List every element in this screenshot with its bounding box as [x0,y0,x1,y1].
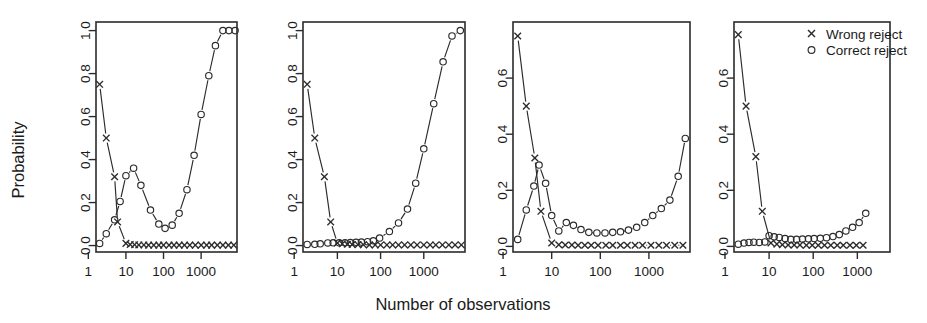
figure-container: 0.00.20.40.60.81.01101001000 0.00.20.40.… [0,0,927,323]
x-tick-label: 1000 [186,264,216,279]
x-tick-label: 1 [85,264,93,279]
x-tick-label: 1000 [634,264,664,279]
x-tick-label: 100 [152,264,175,279]
x-tick-label: 1 [290,264,298,279]
y-tick-label: 0.6 [285,107,300,126]
y-tick-label: 0.2 [285,193,300,212]
y-tick-label: 0.4 [78,150,93,169]
x-tick-label: 1 [721,264,729,279]
y-tick-label: 0.2 [495,181,510,200]
x-tick-label: 1000 [409,264,439,279]
y-tick-label: 0.0 [716,237,731,256]
x-tick-label: 1000 [842,264,872,279]
y-tick-label: 0.2 [78,193,93,212]
y-tick-label: 0.4 [285,150,300,169]
multi-panel-scatter-chart: 0.00.20.40.60.81.01101001000 0.00.20.40.… [0,0,927,323]
y-tick-label: 1.0 [78,21,93,40]
y-tick-label: 0.0 [78,236,93,255]
y-tick-label: 1.0 [285,21,300,40]
x-tick-label: 100 [802,264,825,279]
y-tick-label: 0.0 [285,236,300,255]
y-tick-label: 0.6 [78,107,93,126]
chart-background [0,0,927,323]
x-tick-label: 10 [544,264,559,279]
y-tick-label: 0.4 [495,124,510,143]
y-tick-label: 0.6 [495,69,510,88]
y-tick-label: 0.8 [285,64,300,83]
x-tick-label: 10 [330,264,345,279]
y-axis-title: Probability [9,121,27,199]
x-tick-label: 100 [369,264,392,279]
y-tick-label: 0.0 [495,237,510,256]
y-tick-label: 0.4 [716,124,731,143]
y-tick-label: 0.2 [716,181,731,200]
x-axis-title: Number of observations [375,295,550,313]
legend-label-wrong-reject: Wrong reject [826,27,903,42]
y-tick-label: 0.6 [716,69,731,88]
x-tick-label: 100 [589,264,612,279]
x-tick-label: 10 [118,264,133,279]
x-tick-label: 10 [762,264,777,279]
x-tick-label: 1 [499,264,507,279]
legend-label-correct-reject: Correct reject [826,43,907,58]
y-tick-label: 0.8 [78,64,93,83]
